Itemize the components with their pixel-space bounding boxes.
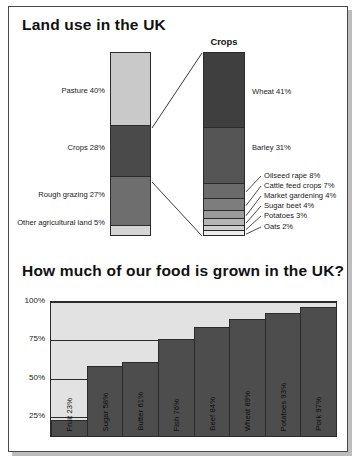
bar-column-label: Sugar 58% xyxy=(102,393,110,431)
stacked-bar-land-use xyxy=(110,52,151,236)
crops-segment-label: Cattle feed crops 7% xyxy=(264,181,335,191)
figure-page: Land use in the UK Crops Pasture 40%Crop… xyxy=(0,0,363,468)
bar-column: Sugar 58% xyxy=(87,366,124,436)
bar-column-label: Beef 84% xyxy=(209,397,217,431)
bar-column-label: Fruit 23% xyxy=(66,398,74,431)
land-use-segment-label: Rough grazing 27% xyxy=(17,190,105,200)
bar-column-label: Potatoes 93% xyxy=(280,383,288,431)
bar-segment xyxy=(111,126,150,177)
bar-column-label: Butter 61% xyxy=(137,392,145,431)
bar-column: Fish 76% xyxy=(158,339,195,436)
y-axis-tick-label: 25% xyxy=(29,411,45,420)
bar-segment xyxy=(204,128,244,184)
bar-segment xyxy=(204,53,244,128)
food-column-chart-plot: Fruit 23%Sugar 58%Butter 61%Fish 76%Beef… xyxy=(50,301,337,437)
page-title-food-grown: How much of our food is grown in the UK? xyxy=(22,262,344,280)
bar-segment xyxy=(204,199,244,212)
crops-segment-label: Potatoes 3% xyxy=(264,211,307,221)
bar-segment xyxy=(204,231,244,235)
bar-segment xyxy=(204,184,244,199)
gridline xyxy=(51,302,336,303)
crops-segment-label: Market gardening 4% xyxy=(264,191,336,201)
land-use-segment-label: Pasture 40% xyxy=(17,86,105,96)
bar-segment xyxy=(111,53,150,126)
bar-segment xyxy=(111,177,150,226)
bar-column: Beef 84% xyxy=(194,327,231,436)
y-axis-tick-label: 50% xyxy=(29,373,45,382)
crops-segment-label: Wheat 41% xyxy=(252,87,291,97)
y-axis-tick-label: 100% xyxy=(25,296,45,305)
crops-segment-label: Barley 31% xyxy=(252,143,291,153)
y-axis-tick-label: 75% xyxy=(29,334,45,343)
crops-segment-label: Oats 2% xyxy=(264,222,293,232)
crops-segment-label: Sugar beet 4% xyxy=(264,201,314,211)
crops-segment-label: Oilseed rape 8% xyxy=(264,171,320,181)
bar-column-label: Wheat 89% xyxy=(244,391,252,431)
bar-column-label: Fish 76% xyxy=(173,399,181,431)
crops-bar-caption: Crops xyxy=(203,36,245,47)
bar-segment xyxy=(204,211,244,218)
bar-column: Wheat 89% xyxy=(229,319,266,436)
bar-segment xyxy=(204,219,244,226)
bar-column: Potatoes 93% xyxy=(265,313,302,436)
page-title-land-use: Land use in the UK xyxy=(22,16,166,34)
land-use-segment-label: Other agricultural land 5% xyxy=(17,218,105,228)
bar-column-label: Pork 97% xyxy=(315,397,323,431)
stacked-bar-crops xyxy=(203,52,245,236)
bar-segment xyxy=(111,226,150,235)
bar-column: Pork 97% xyxy=(300,307,337,436)
bar-column: Butter 61% xyxy=(122,362,159,436)
bar-column: Fruit 23% xyxy=(51,420,88,436)
land-use-segment-label: Crops 28% xyxy=(17,143,105,153)
